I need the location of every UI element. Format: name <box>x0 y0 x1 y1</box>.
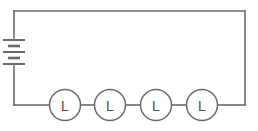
lamp-1-label: L <box>61 98 69 114</box>
lamp-4-label: L <box>198 98 206 114</box>
lamp-3-label: L <box>152 98 160 114</box>
lamp-3[interactable]: L <box>141 90 172 121</box>
circuit-diagram: L L L L <box>0 0 258 131</box>
battery-symbol <box>3 40 25 64</box>
lamp-4[interactable]: L <box>187 90 218 121</box>
lamp-1[interactable]: L <box>50 90 81 121</box>
wire-loop <box>14 11 245 105</box>
diagram-canvas: L L L L <box>0 0 258 131</box>
lamp-2-label: L <box>106 98 114 114</box>
lamp-2[interactable]: L <box>95 90 126 121</box>
